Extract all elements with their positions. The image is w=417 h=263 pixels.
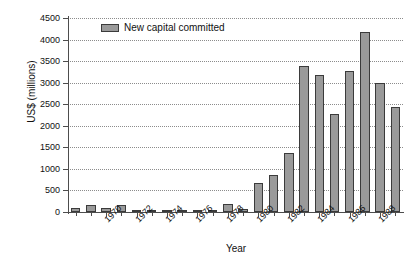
y-tick-label-1500: 1500 [40, 143, 60, 152]
y-tick-4000 [63, 40, 68, 41]
x-tick-1985 [334, 212, 335, 216]
x-tick-1983 [304, 212, 305, 216]
y-tick-label-0: 0 [55, 208, 60, 217]
bar-1985 [330, 114, 339, 212]
bar-1969 [86, 205, 95, 212]
legend: New capital committed [99, 21, 227, 34]
bar-chart-figure: 050010001500200025003000350040004500 197… [0, 0, 417, 263]
x-axis-title: Year [68, 243, 404, 254]
bar-1982 [284, 153, 293, 212]
y-tick-2500 [63, 104, 68, 105]
bar-1989 [391, 107, 400, 212]
x-tick-1977 [213, 212, 214, 216]
gridline-4500 [68, 18, 403, 19]
y-tick-4500 [63, 18, 68, 19]
y-tick-label-4000: 4000 [40, 36, 60, 45]
plot-area [68, 18, 403, 212]
y-tick-0 [63, 212, 68, 213]
x-tick-1971 [121, 212, 122, 216]
gridline-4000 [68, 40, 403, 41]
bar-1988 [375, 83, 384, 212]
y-tick-label-2000: 2000 [40, 122, 60, 131]
x-tick-1979 [243, 212, 244, 216]
y-tick-label-500: 500 [45, 186, 60, 195]
y-tick-1000 [63, 169, 68, 170]
y-tick-label-2500: 2500 [40, 100, 60, 109]
x-tick-1981 [274, 212, 275, 216]
bar-1983 [299, 66, 308, 212]
legend-swatch-new-capital-committed [101, 24, 119, 32]
gridline-3500 [68, 61, 403, 62]
bar-1980 [254, 183, 263, 212]
x-tick-1969 [91, 212, 92, 216]
y-tick-3500 [63, 61, 68, 62]
y-tick-label-4500: 4500 [40, 14, 60, 23]
y-axis-title: US$ (millions) [26, 37, 37, 147]
bar-1986 [345, 71, 354, 212]
bar-1984 [315, 75, 324, 212]
y-tick-label-3000: 3000 [40, 79, 60, 88]
y-tick-1500 [63, 147, 68, 148]
x-tick-1989 [395, 212, 396, 216]
x-tick-1968 [76, 212, 77, 216]
y-tick-label-1000: 1000 [40, 165, 60, 174]
legend-label-new-capital-committed: New capital committed [124, 22, 225, 33]
y-tick-2000 [63, 126, 68, 127]
y-tick-500 [63, 190, 68, 191]
bar-1987 [360, 32, 369, 212]
y-tick-3000 [63, 83, 68, 84]
y-axis-line [68, 16, 69, 214]
x-tick-1975 [182, 212, 183, 216]
y-tick-label-3500: 3500 [40, 57, 60, 66]
